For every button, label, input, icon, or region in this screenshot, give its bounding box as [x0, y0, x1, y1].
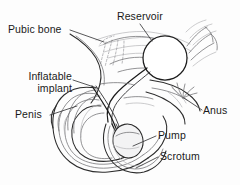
penile-implant-diagram: Pubic bone Reservoir Inflatable implant … [0, 0, 240, 185]
leader-anus [184, 98, 202, 110]
label-anus: Anus [203, 105, 227, 117]
anus-folds [171, 83, 197, 98]
label-inflatable-implant-line2: implant [37, 82, 72, 94]
pubic-bone-contour [70, 34, 104, 103]
reservoir-shape [143, 36, 187, 80]
label-pump: Pump [158, 130, 186, 142]
perineal-base-lines [100, 83, 154, 106]
label-inflatable-implant-line1: Inflatable [28, 70, 72, 82]
label-reservoir: Reservoir [117, 11, 163, 23]
label-scrotum: Scrotum [160, 151, 200, 163]
label-inflatable-implant: Inflatable implant [10, 71, 72, 94]
label-penis: Penis [15, 109, 42, 121]
leader-reservoir [140, 24, 152, 41]
perineum-contour [146, 80, 200, 124]
rectal-tissue-fronds [187, 27, 217, 66]
leader-pubic-bone [70, 30, 104, 42]
label-pubic-bone: Pubic bone [8, 24, 62, 36]
